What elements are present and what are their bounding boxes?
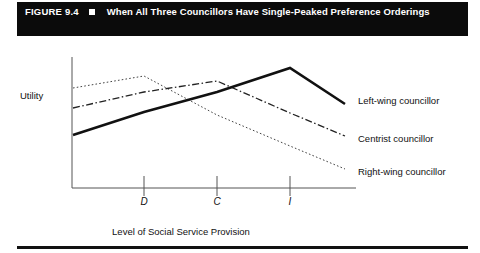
figure-title: When All Three Councillors Have Single-P…	[107, 5, 462, 18]
series-line-centrist	[73, 81, 345, 136]
figure-bottom-rule	[17, 246, 468, 249]
x-tick-label-c: C	[207, 196, 227, 207]
figure-number: FIGURE 9.4	[25, 5, 79, 18]
x-axis-label: Level of Social Service Provision	[0, 226, 480, 237]
legend-label-right-wing: Right-wing councillor	[358, 166, 446, 177]
x-axis-label-text: Level of Social Service Provision	[112, 226, 250, 237]
square-marker-icon	[89, 9, 95, 15]
figure-header-bar: FIGURE 9.4 When All Three Councillors Ha…	[17, 2, 468, 36]
x-tick-label-d: D	[134, 196, 154, 207]
figure-header-row: FIGURE 9.4 When All Three Councillors Ha…	[25, 5, 462, 18]
chart-plot-area: Utility D C I Level of Social Service Pr…	[0, 36, 480, 232]
x-tick-label-i: I	[280, 196, 300, 207]
legend-label-left-wing: Left-wing councillor	[358, 95, 439, 106]
legend-label-centrist: Centrist councillor	[358, 133, 434, 144]
series-line-left-wing	[73, 68, 345, 135]
y-axis-label: Utility	[20, 90, 43, 101]
